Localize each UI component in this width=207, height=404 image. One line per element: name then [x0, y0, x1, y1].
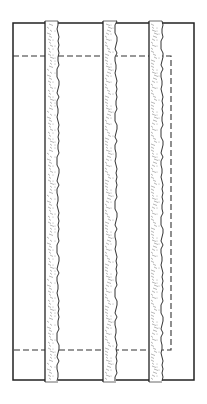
strip-middle [103, 21, 117, 382]
dashed-inner-outline [13, 56, 171, 350]
strips-group [45, 21, 163, 382]
panel-diagram [0, 0, 207, 404]
strip-right [149, 21, 163, 382]
strip-left [45, 21, 59, 382]
